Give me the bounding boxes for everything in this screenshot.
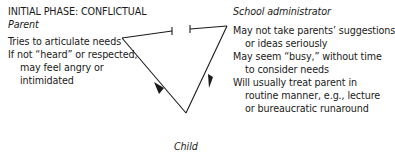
admin-child-line	[186, 26, 227, 113]
parent-child-line	[122, 38, 186, 113]
arrow-up-icon	[154, 82, 164, 94]
parent-blocked-line	[122, 31, 172, 38]
arrow-down-icon	[208, 74, 213, 88]
admin-blocked-line	[190, 26, 227, 29]
